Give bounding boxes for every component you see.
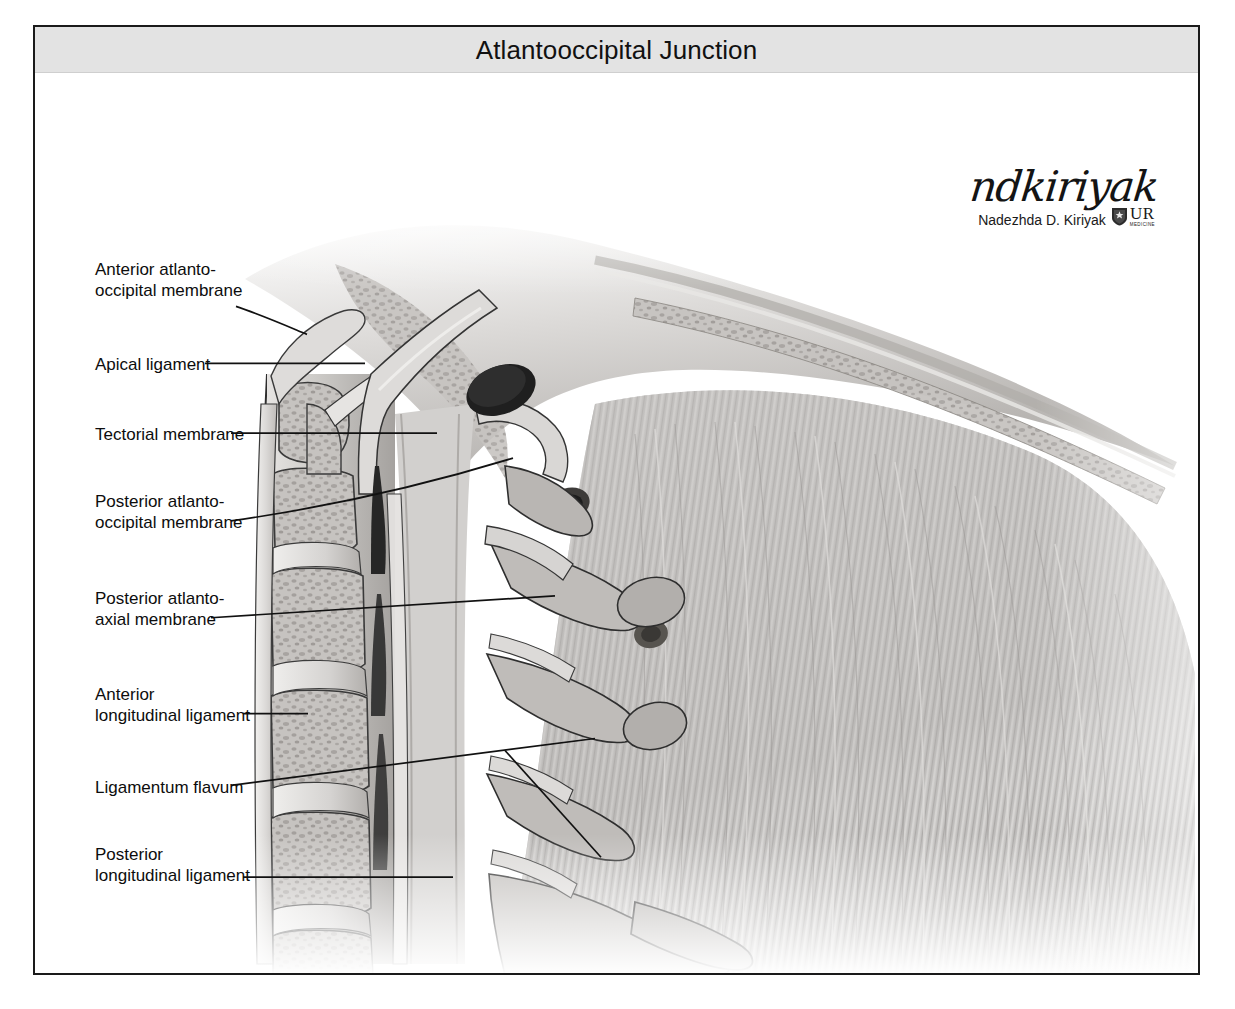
vertebral-body-c3: [271, 568, 365, 675]
label-posterior-atlantoaxial-membrane: Posterior atlanto- axial membrane: [95, 588, 224, 630]
figure-plate: Atlantooccipital Junction: [33, 25, 1200, 975]
vertebral-body-c4: [271, 690, 369, 797]
page-title: Atlantooccipital Junction: [476, 37, 757, 63]
label-apical-ligament: Apical ligament: [95, 354, 210, 375]
label-anterior-longitudinal-ligament: Anterior longitudinal ligament: [95, 684, 250, 726]
label-posterior-atlantooccipital-membrane: Posterior atlanto- occipital membrane: [95, 491, 242, 533]
ur-logo-subtitle: MEDICINE: [1130, 223, 1155, 228]
label-posterior-longitudinal-ligament: Posterior longitudinal ligament: [95, 844, 250, 886]
artist-signature-script: ndkiriyak: [925, 165, 1160, 209]
figure-title-bar: Atlantooccipital Junction: [35, 27, 1198, 73]
artist-name: Nadezhda D. Kiriyak: [978, 212, 1106, 228]
label-tectorial-membrane: Tectorial membrane: [95, 424, 244, 445]
label-ligamentum-flavum: Ligamentum flavum: [95, 777, 243, 798]
label-anterior-atlantooccipital-membrane: Anterior atlanto- occipital membrane: [95, 259, 242, 301]
artist-credit: ndkiriyak Nadezhda D. Kiriyak UR MEDICIN…: [925, 165, 1155, 228]
